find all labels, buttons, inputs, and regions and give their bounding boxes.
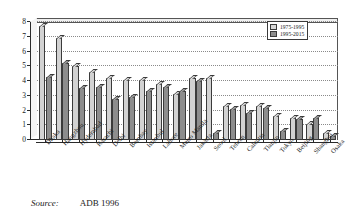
bar-group: [323, 22, 336, 140]
bar: [313, 118, 319, 140]
bar-top-face: [206, 75, 215, 79]
bar-top-face: [123, 77, 132, 81]
legend-item: 1995-2015: [270, 31, 304, 37]
bar-top-face: [129, 94, 138, 98]
bar-group: [173, 22, 186, 140]
bar-group: [139, 22, 152, 140]
bar-group: [306, 22, 319, 140]
bar: [123, 80, 129, 140]
bar-top-face: [139, 77, 148, 81]
bar-top-face: [179, 88, 188, 92]
bar: [39, 26, 45, 140]
bar-top-face: [263, 105, 272, 109]
bar-group: [39, 22, 52, 140]
source-caption: Source: ADB 1996: [31, 198, 119, 209]
y-axis-tick-mark: [27, 36, 30, 37]
bar-group: [206, 22, 219, 140]
y-axis-tick-mark: [27, 51, 30, 52]
bar: [96, 87, 102, 140]
figure-container: 012345678 DhakaHangzhouHyderabadKarachiD…: [0, 0, 350, 222]
x-axis-labels: DhakaHangzhouHyderabadKarachiDelhiBombay…: [30, 141, 340, 193]
bar-top-face: [146, 88, 155, 92]
legend-item: 1975-1995: [270, 24, 304, 30]
bar-group: [123, 22, 136, 140]
bar-top-face: [89, 69, 98, 73]
bar: [230, 109, 236, 140]
legend-item-label: 1975-1995: [280, 24, 304, 30]
bar: [280, 131, 286, 140]
bar-top-face: [246, 110, 255, 114]
source-label: Source:: [31, 198, 59, 209]
source-value: ADB 1996: [80, 198, 119, 209]
legend-swatch-icon: [270, 31, 277, 37]
bar-top-face: [189, 75, 198, 79]
y-axis-tick-mark: [27, 124, 30, 125]
bar-top-face: [240, 102, 249, 106]
bar: [296, 119, 302, 140]
bar-top-face: [56, 35, 65, 39]
bar-top-face: [296, 116, 305, 120]
legend-item-label: 1995-2015: [280, 31, 304, 37]
bar-top-face: [79, 85, 88, 89]
bar-top-face: [112, 96, 121, 100]
bar-top-face: [156, 81, 165, 85]
bar-top-face: [96, 84, 105, 88]
bar-group: [56, 22, 69, 140]
bar-top-face: [273, 113, 282, 117]
bar-top-face: [230, 106, 239, 110]
bar-top-face: [196, 78, 205, 82]
bar-top-face: [163, 84, 172, 88]
y-axis-tick-mark: [27, 95, 30, 96]
y-axis-tick-mark: [27, 21, 30, 22]
bar-top-face: [313, 115, 322, 119]
bar-group: [223, 22, 236, 140]
bar: [129, 97, 135, 140]
bar: [179, 91, 185, 140]
y-axis-tick-mark: [27, 139, 30, 140]
bar-top-face: [39, 23, 48, 27]
chart-left-wall: [30, 18, 37, 139]
y-axis-tick-mark: [27, 65, 30, 66]
bar-group: [240, 22, 253, 140]
bar-top-face: [106, 75, 115, 79]
bar: [246, 113, 252, 140]
bar-top-face: [213, 130, 222, 134]
bar: [46, 77, 52, 140]
y-axis-tick-mark: [27, 80, 30, 81]
bar: [223, 106, 229, 140]
bar-top-face: [280, 128, 289, 132]
bar: [56, 38, 62, 140]
y-axis-tick-mark: [27, 110, 30, 111]
bar-top-face: [72, 63, 81, 67]
bar-group: [156, 22, 169, 140]
bar-top-face: [223, 103, 232, 107]
x-axis-tick-label: Osaka: [329, 138, 346, 155]
bar: [79, 88, 85, 140]
y-axis-line: [30, 22, 31, 140]
legend-swatch-icon: [270, 24, 277, 30]
chart-legend: 1975-1995 1995-2015: [267, 21, 308, 40]
bar-top-face: [46, 74, 55, 78]
bar-top-face: [62, 60, 71, 64]
bar-group: [106, 22, 119, 140]
bar: [62, 63, 68, 140]
